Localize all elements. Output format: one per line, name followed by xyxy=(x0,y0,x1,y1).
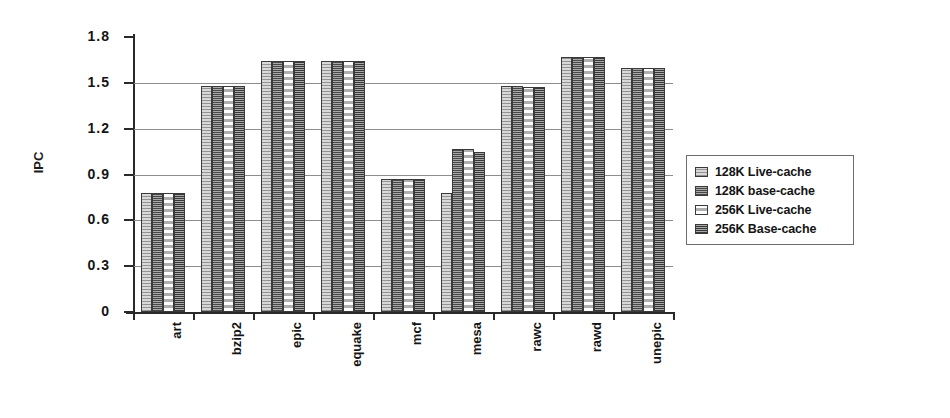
bar xyxy=(201,86,212,312)
y-axis-tick-mark xyxy=(124,36,134,38)
x-axis-tick-mark xyxy=(613,312,615,320)
legend-item-label: 128K Live-cache xyxy=(715,165,811,179)
bar xyxy=(332,61,343,312)
bar xyxy=(621,68,632,312)
x-axis-line xyxy=(126,312,674,314)
bar xyxy=(343,61,354,312)
plot-area xyxy=(133,37,673,312)
bar xyxy=(474,152,485,312)
bar xyxy=(654,68,665,312)
x-axis-tick-label: mcf xyxy=(409,322,424,345)
legend-item[interactable]: 128K base-cache xyxy=(695,181,847,200)
y-axis-tick-label: 0.3 xyxy=(62,257,110,273)
x-axis-tick-label: mesa xyxy=(469,322,484,355)
chart-legend: 128K Live-cache128K base-cache256K Live-… xyxy=(686,155,854,245)
bar xyxy=(452,149,463,312)
bar xyxy=(261,61,272,312)
bar xyxy=(272,61,283,312)
y-axis-tick-label: 1.2 xyxy=(62,120,110,136)
x-axis-tick-label: art xyxy=(169,322,184,339)
bar-group xyxy=(321,37,365,312)
bar xyxy=(414,179,425,312)
y-axis-tick-mark xyxy=(124,219,134,221)
bar-group xyxy=(501,37,545,312)
bar-group xyxy=(201,37,245,312)
bar xyxy=(234,86,245,312)
x-axis-tick-label: equake xyxy=(349,322,364,367)
legend-item[interactable]: 128K Live-cache xyxy=(695,162,847,181)
bar xyxy=(381,179,392,312)
bar xyxy=(223,86,234,312)
bar xyxy=(163,193,174,312)
bar-group xyxy=(441,37,485,312)
y-axis-tick-label: 0 xyxy=(62,303,110,319)
bar-group xyxy=(561,37,605,312)
bar-group xyxy=(141,37,185,312)
legend-item-label: 256K Base-cache xyxy=(715,222,816,236)
y-axis-tick-mark xyxy=(124,265,134,267)
legend-swatch-icon xyxy=(695,167,708,177)
bar xyxy=(392,179,403,312)
bar xyxy=(294,61,305,312)
legend-item-label: 128K base-cache xyxy=(715,184,815,198)
bar xyxy=(501,86,512,312)
legend-swatch-icon xyxy=(695,205,708,215)
bar xyxy=(403,179,414,312)
bar xyxy=(534,87,545,312)
x-axis-tick-mark xyxy=(673,312,675,320)
bar xyxy=(583,57,594,312)
y-axis-tick-mark xyxy=(124,82,134,84)
bar xyxy=(283,61,294,312)
x-axis-tick-label: unepic xyxy=(649,322,664,364)
bar-group xyxy=(621,37,665,312)
x-axis-tick-mark xyxy=(493,312,495,320)
y-axis-tick-label: 0.6 xyxy=(62,211,110,227)
x-axis-tick-label: bzip2 xyxy=(229,322,244,355)
bar xyxy=(512,86,523,312)
legend-swatch-icon xyxy=(695,186,708,196)
bar xyxy=(354,61,365,312)
x-axis-tick-mark xyxy=(253,312,255,320)
y-axis-tick-mark xyxy=(124,174,134,176)
bar-group xyxy=(381,37,425,312)
bar-group xyxy=(261,37,305,312)
x-axis-tick-mark xyxy=(373,312,375,320)
bar xyxy=(212,86,223,312)
legend-item-label: 256K Live-cache xyxy=(715,203,811,217)
y-axis-tick-mark xyxy=(124,128,134,130)
bar xyxy=(321,61,332,312)
legend-swatch-icon xyxy=(695,224,708,234)
legend-item[interactable]: 256K Live-cache xyxy=(695,200,847,219)
bar xyxy=(643,68,654,312)
y-axis-title: IPC xyxy=(31,133,46,193)
bar xyxy=(632,68,643,312)
bar xyxy=(561,57,572,312)
bar xyxy=(572,57,583,312)
y-axis-tick-label: 0.9 xyxy=(62,166,110,182)
x-axis-tick-label: rawc xyxy=(529,322,544,352)
bar xyxy=(152,193,163,312)
bar xyxy=(594,57,605,312)
y-axis-tick-label: 1.5 xyxy=(62,74,110,90)
bar xyxy=(174,193,185,312)
x-axis-tick-mark xyxy=(313,312,315,320)
x-axis-tick-mark xyxy=(133,312,135,320)
bar-chart: IPC 00.30.60.91.21.51.8 artbzip2epicequa… xyxy=(0,0,950,418)
legend-item[interactable]: 256K Base-cache xyxy=(695,219,847,238)
x-axis-tick-label: rawd xyxy=(589,322,604,352)
y-axis-tick-label: 1.8 xyxy=(62,28,110,44)
bar xyxy=(441,193,452,312)
x-axis-tick-label: epic xyxy=(289,322,304,348)
bar xyxy=(523,87,534,312)
x-axis-tick-mark xyxy=(193,312,195,320)
bar xyxy=(141,193,152,312)
bar xyxy=(463,149,474,312)
x-axis-tick-mark xyxy=(553,312,555,320)
x-axis-tick-mark xyxy=(433,312,435,320)
